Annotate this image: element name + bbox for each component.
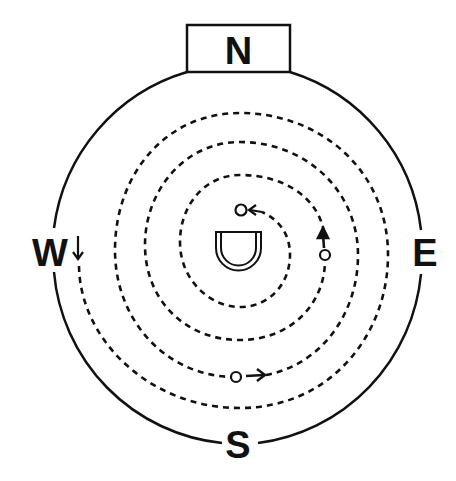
east-node: [318, 228, 330, 260]
west-label: W: [32, 232, 68, 274]
compass-diagram: N W E S: [0, 0, 456, 481]
up-arrow-icon: [318, 228, 328, 248]
north-label: N: [225, 30, 252, 72]
circle-node-icon: [236, 205, 247, 216]
east-label: E: [412, 232, 437, 274]
end-node: [236, 205, 263, 216]
right-arrow-icon: [246, 369, 265, 381]
circle-node-icon: [320, 250, 330, 260]
outer-circle: [54, 72, 421, 443]
left-arrow-icon: [249, 205, 262, 215]
circle-node-icon: [231, 372, 241, 382]
south-label: S: [225, 424, 250, 466]
spiral-path: [79, 113, 388, 408]
center-u-symbol-icon: [216, 232, 261, 271]
spiral-path-core: [180, 175, 324, 307]
down-arrow-icon: [73, 236, 83, 259]
south-node: [231, 369, 265, 382]
north-marker: N: [187, 25, 290, 72]
